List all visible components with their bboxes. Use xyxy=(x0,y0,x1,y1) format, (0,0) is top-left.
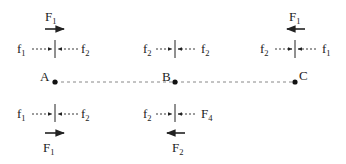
point-a: A xyxy=(40,69,58,85)
bottom-a-left-label: f1 xyxy=(17,106,26,123)
top-c-right-label: f1 xyxy=(322,41,331,58)
point-c: C xyxy=(292,68,307,85)
point-c-label: C xyxy=(299,68,308,83)
bottom-b-force-label: F2 xyxy=(172,140,183,157)
bottom-a-right-label: f2 xyxy=(81,106,90,123)
point-b-label: B xyxy=(162,69,171,84)
bottom-b-group: f2 F4 F2 xyxy=(143,104,213,157)
bottom-b-left-label: f2 xyxy=(143,106,152,123)
top-c-group: F1 f2 f1 xyxy=(260,9,331,58)
top-a-left-label: f1 xyxy=(17,41,26,58)
top-c-left-label: f2 xyxy=(260,41,269,58)
top-b-right-label: f2 xyxy=(201,41,210,58)
point-c-dot xyxy=(292,79,297,84)
top-a-force-label: F1 xyxy=(45,9,56,26)
bottom-a-group: f1 f2 F1 xyxy=(17,104,90,157)
point-b-dot xyxy=(172,79,177,84)
bottom-b-right-label: F4 xyxy=(201,106,213,123)
top-a-right-label: f2 xyxy=(81,41,90,58)
force-diagram: A B C F1 f1 f2 f2 f2 F1 f2 f1 f1 xyxy=(0,0,346,164)
top-b-left-label: f2 xyxy=(143,41,152,58)
point-b: B xyxy=(162,69,178,85)
top-a-group: F1 f1 f2 xyxy=(17,9,90,58)
point-a-label: A xyxy=(40,69,50,84)
top-b-group: f2 f2 xyxy=(143,40,210,58)
bottom-a-force-label: F1 xyxy=(43,140,54,157)
top-c-force-label: F1 xyxy=(289,9,300,26)
point-a-dot xyxy=(52,79,57,84)
